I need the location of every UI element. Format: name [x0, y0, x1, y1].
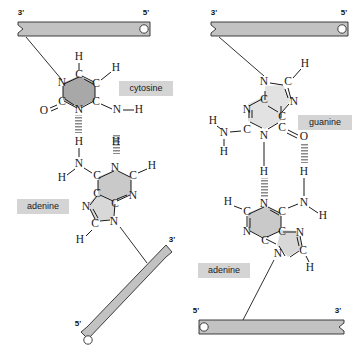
atom-N-guanine-1: N	[260, 129, 269, 141]
atom-C-left-aden-6: C	[93, 169, 101, 181]
left-top-backbone[interactable]: 3' 5'	[18, 8, 150, 36]
atom-C-guanine-2: C	[243, 123, 251, 135]
right-bottom-five-prime-label: 5'	[193, 306, 199, 315]
atom-C-right-aden-4: C	[261, 234, 269, 246]
atom-N-right-aden-amine: N	[300, 196, 309, 208]
left-top-five-prime-label: 5'	[143, 8, 149, 17]
atom-N-right-aden-3: N	[243, 225, 252, 237]
atom-N-guanine-3: N	[243, 103, 252, 115]
atom-C-right-aden-5: C	[278, 225, 286, 237]
atom-H-guanine-n1h: H	[260, 165, 268, 177]
atom-N-guanine-9: N	[260, 75, 269, 87]
right-bottom-backbone[interactable]: 5' 3'	[193, 306, 344, 334]
atom-C-right-aden-2: C	[243, 205, 251, 217]
left-glycosidic-line-top	[26, 37, 62, 80]
figure-canvas: 3' 5' C H C H N C O N C N	[0, 0, 361, 355]
atom-N-cytosine-amine: N	[113, 103, 122, 115]
left-glycosidic-line-bottom	[120, 227, 147, 263]
atom-N-cytosine-3: N	[75, 103, 84, 115]
bond-c6-n-right-aden	[288, 204, 298, 208]
atom-C-cytosine-2: C	[58, 95, 66, 107]
atom-C-right-aden-6: C	[278, 205, 286, 217]
right-top-five-prime-label: 5'	[341, 8, 347, 17]
base-pair-diagram: 3' 5' C H C H N C O N C N	[0, 0, 361, 355]
right-top-backbone[interactable]: 3' 5'	[211, 8, 348, 36]
guanine-label-text: guanine	[309, 117, 341, 127]
left-bottom-three-prime-label: 3'	[169, 235, 175, 244]
bond-c2-h-right-aden	[234, 206, 242, 209]
left-top-three-prime-label: 3'	[18, 8, 24, 17]
atom-H-cytosine-6: H	[112, 61, 120, 73]
atom-C-right-aden-8: C	[299, 244, 307, 256]
atom-H-guanine-amine-1: H	[209, 114, 217, 126]
atom-C-left-aden-5: C	[93, 187, 101, 199]
adenine-left-label: adenine	[17, 199, 69, 214]
atom-N-guanine-7: N	[290, 95, 299, 107]
right-glycosidic-line-top	[219, 37, 264, 76]
left-panel: 3' 5' C H C H N C O N C N	[17, 8, 175, 344]
atom-C-cytosine-6: C	[92, 77, 100, 89]
atom-O-cytosine-2: O	[40, 104, 48, 116]
atom-H-left-aden-nh-lower: H	[58, 171, 66, 183]
atom-H-left-aden-n1h: H	[112, 135, 120, 147]
adenine-left-label-text: adenine	[27, 201, 59, 211]
atom-H-left-aden-8: H	[76, 233, 84, 245]
atom-C-left-aden-2: C	[129, 169, 137, 181]
atom-C-left-aden-8: C	[91, 217, 99, 229]
atom-H-right-aden-amine-lower: H	[319, 209, 327, 221]
bond-c8-h-left-aden	[86, 230, 92, 236]
atom-N-right-aden-1: N	[260, 197, 269, 209]
atom-N-cytosine-1: N	[58, 76, 67, 88]
bond-c2-h-left-aden	[138, 169, 147, 173]
left-bottom-five-prime-label: 5'	[75, 319, 81, 328]
adenine-right-label: adenine	[198, 263, 250, 278]
atom-N-left-aden-7: N	[82, 200, 91, 212]
bond-n-h2-left-aden	[67, 169, 75, 175]
atom-H-left-aden-nh-upper: H	[75, 135, 83, 147]
atom-H-right-aden-2: H	[224, 195, 232, 207]
bond-c8-h-guanine	[293, 69, 301, 78]
bond-n-c6-left-aden	[84, 168, 92, 173]
atom-C-guanine-6: C	[278, 121, 286, 133]
atom-H-left-aden-2: H	[148, 159, 156, 171]
hydrogen-bond-3	[301, 143, 308, 163]
atom-H-cytosine-5: H	[75, 50, 83, 62]
atom-O-guanine-6: O	[300, 130, 308, 142]
atom-H-right-aden-8: H	[306, 261, 314, 273]
atom-C-cytosine-4: C	[92, 95, 100, 107]
cytosine-label-text: cytosine	[129, 83, 162, 93]
atom-N-right-aden-7: N	[296, 226, 305, 238]
atom-N-left-aden-9: N	[110, 215, 119, 227]
atom-N-left-aden-1: N	[111, 161, 120, 173]
bond-n-h-right-aden-2	[309, 207, 318, 213]
atom-H-right-aden-amine-upper: H	[300, 165, 308, 177]
left-bottom-backbone[interactable]: 3' 5'	[75, 235, 175, 344]
bond-c2-n-guanine	[230, 131, 241, 132]
bond-c4-n	[101, 104, 112, 109]
cytosine-label: cytosine	[119, 81, 173, 96]
atom-H-guanine-amine-2: H	[220, 145, 228, 157]
hydrogen-bond-1	[75, 115, 82, 133]
atom-N-guanine-amine: N	[220, 126, 229, 138]
atom-C-guanine-8: C	[284, 75, 292, 87]
atom-N-right-aden-9: N	[274, 247, 283, 259]
right-bottom-three-prime-label: 3'	[335, 306, 341, 315]
bond-c2-o-b	[51, 108, 58, 111]
atom-C-guanine-4: C	[260, 93, 268, 105]
right-top-three-prime-label: 3'	[211, 8, 217, 17]
atom-C-left-aden-4: C	[111, 197, 119, 209]
guanine-label: guanine	[298, 115, 352, 130]
adenine-right-label-text: adenine	[208, 265, 240, 275]
atom-N-left-aden-3: N	[129, 189, 138, 201]
bond-c2-o-a	[50, 105, 57, 108]
right-panel: 3' 5' N C H N C C N C N	[193, 8, 352, 334]
hydrogen-bond-4	[261, 178, 268, 198]
atom-H-cytosine-amine: H	[135, 103, 143, 115]
atom-H-guanine-8: H	[301, 57, 309, 69]
bond-c6-h	[101, 72, 111, 80]
atom-N-left-aden-amine: N	[75, 157, 84, 169]
